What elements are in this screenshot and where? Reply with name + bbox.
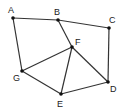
node-f (70, 45, 74, 49)
node-label-e: E (57, 99, 63, 109)
edge-f-e (61, 47, 72, 94)
edge-c-d (108, 28, 109, 82)
edge-f-d (72, 47, 108, 82)
node-label-f: F (75, 37, 81, 47)
node-c (107, 26, 111, 30)
edge-a-g (13, 18, 22, 71)
node-g (20, 69, 24, 73)
node-label-b: B (54, 7, 60, 17)
node-e (59, 92, 63, 96)
node-label-d: D (110, 84, 117, 94)
edge-g-e (22, 71, 61, 94)
edge-a-b (13, 18, 58, 20)
nodes-group (11, 16, 111, 96)
edge-b-c (58, 20, 109, 28)
edge-f-g (22, 47, 72, 71)
graph-diagram: ABCFGED (0, 0, 123, 110)
node-label-c: C (109, 15, 116, 25)
edges-group (13, 18, 109, 94)
node-b (56, 18, 60, 22)
node-a (11, 16, 15, 20)
node-label-g: G (13, 73, 20, 83)
node-label-a: A (8, 5, 14, 15)
edge-e-d (61, 82, 108, 94)
edge-b-f (58, 20, 72, 47)
